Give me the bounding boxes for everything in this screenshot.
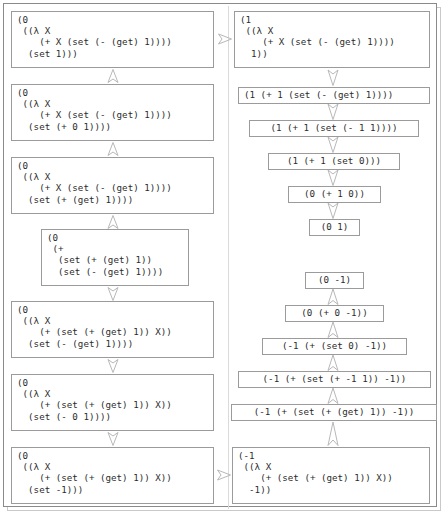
arrow-down-R1-to-R2 xyxy=(326,68,340,87)
arrow-up-R9-to-R8 xyxy=(326,321,340,339)
arrow-down-R4-to-R5 xyxy=(326,168,340,187)
term-node-R12: (-1 ((λ X (+ (set (+ (get) 1)) X)) -1)) xyxy=(232,447,430,504)
term-text: (-1 (+ (set 0) -1)) xyxy=(282,340,387,352)
arrow-up-L4-to-L3 xyxy=(105,214,121,230)
arrow-down-R2-to-R3 xyxy=(326,102,340,121)
arrow-up-R10-to-R9 xyxy=(326,354,340,372)
term-node-L4: (0 (+ (set (+ (get) 1)) (set (- (get) 1)… xyxy=(41,229,189,286)
term-text: (0 (+ 0 -1)) xyxy=(301,307,367,319)
arrow-down-R5-to-R6 xyxy=(326,201,340,220)
term-node-L1: (0 ((λ X (+ X (set (- (get) 1)))) (set 1… xyxy=(11,11,214,68)
term-text: (1 ((λ X (+ X (set (- (get) 1)))) 1)) xyxy=(240,14,424,59)
term-node-R7: (0 -1) xyxy=(305,272,364,289)
term-node-L2: (0 ((λ X (+ X (set (- (get) 1)))) (set (… xyxy=(11,84,214,141)
term-text: (-1 (+ (set (+ (get) 1)) -1)) xyxy=(254,406,414,418)
term-text: (0 ((λ X (+ X (set (- (get) 1)))) (set 1… xyxy=(17,14,208,59)
term-node-R11: (-1 (+ (set (+ (get) 1)) -1)) xyxy=(231,404,437,421)
term-text: (1 (+ 1 (set (- (get) 1)))) xyxy=(244,89,393,101)
term-text: (0 (+ (set (+ (get) 1)) (set (- (get) 1)… xyxy=(47,232,183,277)
arrow-up-R8-to-R7 xyxy=(326,288,340,306)
term-node-R1: (1 ((λ X (+ X (set (- (get) 1)))) 1)) xyxy=(234,11,430,68)
term-text: (0 (+ 1 0)) xyxy=(304,188,365,200)
term-node-R10: (-1 (+ (set (+ -1 1)) -1)) xyxy=(238,371,431,388)
arrow-up-R12-to-R11 xyxy=(326,421,340,447)
term-text: (1 (+ 1 (set 0))) xyxy=(287,155,381,167)
arrow-down-R3-to-R4 xyxy=(326,135,340,154)
term-text: (0 ((λ X (+ (set (+ (get) 1)) X)) (set -… xyxy=(17,450,208,495)
term-node-L7: (0 ((λ X (+ (set (+ (get) 1)) X)) (set -… xyxy=(11,447,214,504)
term-text: (0 1) xyxy=(321,221,349,233)
arrow-right-L7-to-R12 xyxy=(214,467,232,483)
term-node-R2: (1 (+ 1 (set (- (get) 1)))) xyxy=(238,87,430,104)
term-text: (-1 ((λ X (+ (set (+ (get) 1)) X)) -1)) xyxy=(238,450,424,495)
arrow-right-L1-to-R1 xyxy=(215,31,233,47)
reduction-diagram: (0 ((λ X (+ X (set (- (get) 1)))) (set 1… xyxy=(0,0,445,515)
term-node-R8: (0 (+ 0 -1)) xyxy=(285,305,384,322)
column-separator xyxy=(228,6,229,509)
term-node-R9: (-1 (+ (set 0) -1)) xyxy=(262,338,407,355)
term-node-R6: (0 1) xyxy=(309,219,360,236)
term-text: (0 ((λ X (+ (set (+ (get) 1)) X)) (set (… xyxy=(17,304,208,349)
term-text: (0 ((λ X (+ (set (+ (get) 1)) X)) (set (… xyxy=(17,377,208,422)
arrow-down-L6-to-L7 xyxy=(105,431,121,447)
term-text: (1 (+ 1 (set (- 1 1)))) xyxy=(270,122,397,134)
arrow-down-L5-to-L6 xyxy=(105,358,121,374)
arrow-up-L3-to-L2 xyxy=(105,141,121,157)
term-node-L5: (0 ((λ X (+ (set (+ (get) 1)) X)) (set (… xyxy=(11,301,214,358)
term-node-L3: (0 ((λ X (+ X (set (- (get) 1)))) (set (… xyxy=(11,157,214,214)
arrow-up-L2-to-L1 xyxy=(105,68,121,84)
term-text: (0 -1) xyxy=(318,274,351,286)
term-text: (-1 (+ (set (+ -1 1)) -1)) xyxy=(263,373,407,385)
arrow-up-R11-to-R10 xyxy=(326,387,340,405)
term-text: (0 ((λ X (+ X (set (- (get) 1)))) (set (… xyxy=(17,87,208,132)
term-node-R4: (1 (+ 1 (set 0))) xyxy=(268,153,400,170)
term-text: (0 ((λ X (+ X (set (- (get) 1)))) (set (… xyxy=(17,160,208,205)
term-node-R3: (1 (+ 1 (set (- 1 1)))) xyxy=(249,120,419,137)
term-node-R5: (0 (+ 1 0)) xyxy=(288,186,381,203)
term-node-L6: (0 ((λ X (+ (set (+ (get) 1)) X)) (set (… xyxy=(11,374,214,431)
arrow-down-L4-to-L5 xyxy=(105,286,121,302)
